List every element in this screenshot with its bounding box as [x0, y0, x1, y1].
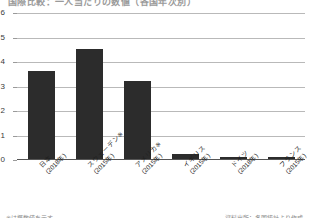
chart-title: 国際比較：一人当たりの数値（各国年次別） [8, 0, 196, 7]
chart-title-cropped: 国際比較：一人当たりの数値（各国年次別） [0, 0, 315, 7]
footnote-right: 資料出所：各国統計より作成。 [225, 213, 309, 218]
y-axis-tick-label: 2 [0, 107, 5, 115]
bar [28, 71, 55, 159]
footnote-cropped: ※は概数値を示す。 資料出所：各国統計より作成。 [0, 210, 315, 218]
footnote-left: ※は概数値を示す。 [6, 213, 58, 218]
y-axis-tick-label: 1 [0, 132, 5, 140]
x-axis-labels: 日本(2018年)スウェーデン※(2015年)アメリカ※(2015年)イギリス(… [17, 161, 305, 209]
y-axis-tick-label: 0 [0, 156, 5, 164]
y-axis-tick-label: 3 [0, 83, 5, 91]
bar-chart: 国際比較：一人当たりの数値（各国年次別） 0123456 日本(2018年)スウ… [0, 0, 315, 218]
y-axis-tick-label: 5 [0, 34, 5, 42]
y-axis-tick-label: 4 [0, 58, 5, 66]
y-axis-tick-label: 6 [0, 9, 5, 17]
